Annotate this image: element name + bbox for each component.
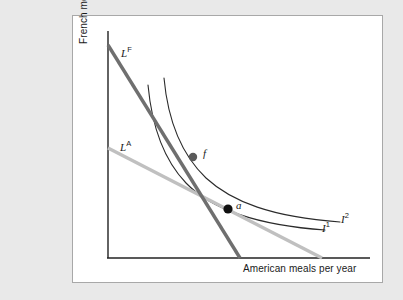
y-axis-title: French meals per year bbox=[78, 30, 89, 44]
indifference-curve-2-label-sup: 2 bbox=[345, 211, 349, 220]
indifference-curve-1-label-sup: 1 bbox=[326, 220, 330, 229]
point-f-label: f bbox=[203, 147, 206, 159]
chart-panel bbox=[72, 15, 383, 283]
budget-line-french-label-sup: F bbox=[127, 45, 132, 54]
figure-root: French meals per year American meals per… bbox=[0, 0, 403, 300]
budget-line-american-label: LA bbox=[120, 141, 131, 153]
indifference-curve-1-label: I1 bbox=[322, 222, 330, 234]
budget-line-american-label-sup: A bbox=[126, 139, 131, 148]
x-axis-title: American meals per year bbox=[243, 263, 356, 274]
point-a-label: a bbox=[236, 199, 242, 211]
indifference-curve-2-label: I2 bbox=[341, 213, 349, 225]
budget-line-french-label: LF bbox=[121, 47, 132, 59]
